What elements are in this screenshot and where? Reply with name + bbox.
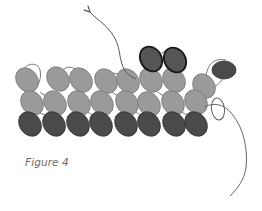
highlighted-new-bead <box>135 42 166 75</box>
thread-tail <box>204 97 246 196</box>
bottom-row-bead <box>85 107 117 140</box>
beading-diagram <box>0 0 262 211</box>
bottom-row-bead <box>38 107 70 140</box>
bottom-row-bead <box>110 107 142 140</box>
end-bead <box>212 61 236 79</box>
bead-rows <box>11 42 236 140</box>
bottom-row-bead <box>180 107 212 140</box>
bottom-row-bead <box>62 107 94 140</box>
figure-caption: Figure 4 <box>25 156 69 168</box>
bottom-row-bead <box>133 107 165 140</box>
